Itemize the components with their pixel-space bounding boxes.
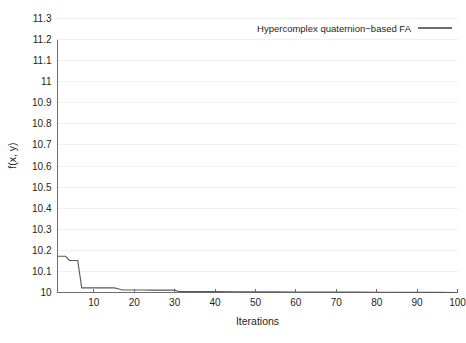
- y-tick-label: 10.6: [32, 161, 52, 172]
- x-tick-label: 30: [169, 297, 181, 308]
- y-tick-label: 10.7: [32, 139, 52, 150]
- x-tick-label: 10: [88, 297, 100, 308]
- x-tick-label: 20: [129, 297, 141, 308]
- y-tick-label: 11.2: [33, 34, 52, 45]
- gridlines: [56, 19, 458, 293]
- x-tick-label: 40: [210, 297, 222, 308]
- x-tick-label: 90: [412, 297, 424, 308]
- y-axis-title: f(x, y): [6, 142, 18, 168]
- series-line: [58, 256, 458, 292]
- y-tick-label: 10.5: [32, 182, 52, 193]
- y-tick-label: 10.3: [32, 224, 52, 235]
- y-tick-label: 11: [41, 76, 52, 87]
- legend-entry-label: Hypercomplex quaternion−based FA: [257, 23, 412, 34]
- x-axis-title: Iterations: [236, 315, 279, 327]
- data-series-group: [58, 256, 458, 292]
- y-tick-label: 10.8: [32, 118, 52, 129]
- y-tick-label: 10.1: [32, 266, 52, 277]
- y-tick-label: 11.3: [33, 13, 52, 24]
- x-axis-tick-labels: 102030405060708090100: [88, 297, 466, 308]
- x-tick-label: 50: [250, 297, 262, 308]
- y-tick-label: 10: [40, 287, 52, 298]
- y-tick-label: 10.4: [32, 203, 52, 214]
- x-tick-label: 70: [331, 297, 343, 308]
- y-tick-label: 10.9: [32, 97, 52, 108]
- x-tick-label: 60: [290, 297, 302, 308]
- x-tick-label: 100: [449, 297, 466, 308]
- chart-legend: Hypercomplex quaternion−based FA: [257, 23, 452, 34]
- y-axis-tick-labels: 1010.110.210.310.410.510.610.710.810.911…: [32, 13, 52, 298]
- convergence-line-chart: 1010.110.210.310.410.510.610.710.810.911…: [0, 0, 466, 343]
- y-tick-label: 11.1: [33, 55, 52, 66]
- y-tick-label: 10.2: [32, 245, 52, 256]
- chart-figure: 1010.110.210.310.410.510.610.710.810.911…: [0, 0, 466, 343]
- x-tick-label: 80: [371, 297, 383, 308]
